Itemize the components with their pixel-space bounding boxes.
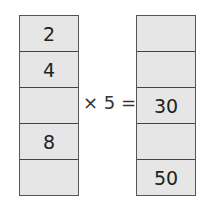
- input-column: 2 4 8: [19, 15, 79, 196]
- input-cell-5[interactable]: [20, 159, 78, 195]
- input-cell-2[interactable]: 4: [20, 51, 78, 87]
- output-cell-3[interactable]: 30: [137, 87, 195, 123]
- output-cell-4[interactable]: [137, 123, 195, 159]
- input-cell-4[interactable]: 8: [20, 123, 78, 159]
- output-column: 30 50: [136, 15, 196, 196]
- multiply-operator: × 5 =: [83, 92, 136, 113]
- output-cell-5[interactable]: 50: [137, 159, 195, 195]
- output-cell-2[interactable]: [137, 51, 195, 87]
- output-cell-1[interactable]: [137, 16, 195, 51]
- input-cell-1[interactable]: 2: [20, 16, 78, 51]
- input-cell-3[interactable]: [20, 87, 78, 123]
